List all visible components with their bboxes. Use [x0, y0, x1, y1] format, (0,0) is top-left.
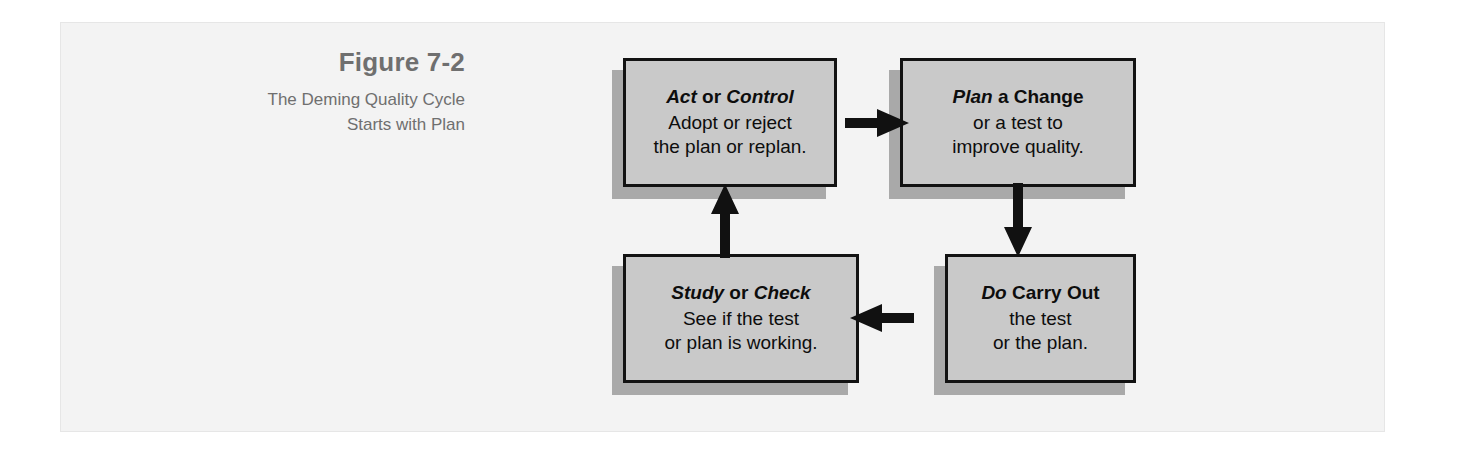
- process-node-study[interactable]: Study or Check See if the test or plan i…: [623, 254, 859, 383]
- node-study-keyword-1: Study: [671, 282, 724, 303]
- node-act-line-3: the plan or replan.: [653, 135, 806, 160]
- arrow-plan-to-do-icon: [1000, 183, 1036, 259]
- node-act-conjunction: or: [697, 86, 727, 107]
- arrow-do-to-study-icon: [848, 300, 914, 336]
- figure-caption: Figure 7-2 The Deming Quality Cycle Star…: [120, 48, 465, 137]
- process-node-act[interactable]: Act or Control Adopt or reject the plan …: [623, 58, 837, 187]
- node-study-line-2: See if the test: [683, 307, 799, 332]
- figure-number: Figure 7-2: [120, 48, 465, 78]
- process-node-plan[interactable]: Plan a Change or a test to improve quali…: [900, 58, 1136, 187]
- node-study-heading: Study or Check: [671, 281, 810, 306]
- node-do-keyword-1: Do: [981, 282, 1006, 303]
- node-act-line-2: Adopt or reject: [668, 111, 792, 136]
- arrow-study-to-act-icon: [707, 182, 743, 258]
- arrow-act-to-plan-icon: [845, 105, 911, 141]
- node-do-conjunction: Carry Out: [1007, 282, 1100, 303]
- node-study-keyword-2: Check: [754, 282, 811, 303]
- node-act-keyword-2: Control: [726, 86, 794, 107]
- figure-caption-line-2: Starts with Plan: [120, 113, 465, 138]
- node-act-heading: Act or Control: [666, 85, 794, 110]
- node-plan-conjunction: a Change: [993, 86, 1084, 107]
- node-plan-keyword-1: Plan: [953, 86, 993, 107]
- process-node-do[interactable]: Do Carry Out the test or the plan.: [945, 254, 1136, 383]
- figure-container: Figure 7-2 The Deming Quality Cycle Star…: [0, 0, 1461, 457]
- node-act-keyword-1: Act: [666, 86, 697, 107]
- node-plan-heading: Plan a Change: [953, 85, 1084, 110]
- node-plan-line-3: improve quality.: [952, 135, 1084, 160]
- node-do-line-2: the test: [1009, 307, 1071, 332]
- node-do-heading: Do Carry Out: [981, 281, 1099, 306]
- node-do-line-3: or the plan.: [993, 331, 1088, 356]
- figure-caption-line-1: The Deming Quality Cycle: [120, 88, 465, 113]
- node-study-conjunction: or: [724, 282, 754, 303]
- node-study-line-3: or plan is working.: [664, 331, 817, 356]
- node-plan-line-2: or a test to: [973, 111, 1063, 136]
